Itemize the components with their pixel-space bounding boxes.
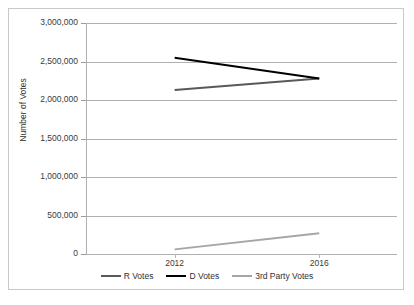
y-axis-tick-mark <box>81 254 86 255</box>
y-axis-tick-mark <box>81 100 86 101</box>
legend-color-swatch <box>166 275 186 278</box>
legend-color-swatch <box>232 275 252 278</box>
y-axis-tick-mark <box>81 139 86 140</box>
legend-item[interactable]: R Votes <box>101 271 154 281</box>
y-axis-tick-mark <box>81 216 86 217</box>
legend-label: 3rd Party Votes <box>255 271 313 281</box>
chart-legend: R VotesD Votes3rd Party Votes <box>9 271 405 281</box>
x-axis-tick-label: 2016 <box>289 258 349 268</box>
y-axis-tick-mark <box>81 177 86 178</box>
x-axis-tick-label: 2012 <box>145 258 205 268</box>
y-axis-tick-mark <box>81 23 86 24</box>
x-axis-tick-mark <box>319 254 320 258</box>
y-axis-tick-mark <box>81 62 86 63</box>
series-line <box>175 58 320 79</box>
x-axis-tick-mark <box>175 254 176 258</box>
chart-container: 3,000,0002,500,0002,000,0001,500,0001,00… <box>8 8 404 290</box>
legend-label: R Votes <box>124 271 154 281</box>
legend-label: D Votes <box>189 271 219 281</box>
legend-item[interactable]: D Votes <box>166 271 219 281</box>
legend-item[interactable]: 3rd Party Votes <box>232 271 313 281</box>
legend-color-swatch <box>101 275 121 278</box>
series-line <box>175 233 320 249</box>
series-layer <box>9 9 405 291</box>
series-line <box>175 78 320 90</box>
